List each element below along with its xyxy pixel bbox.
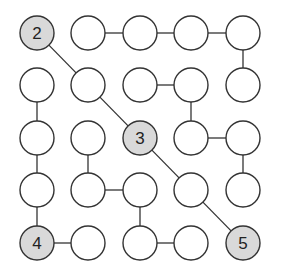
circle-shape[interactable] — [123, 173, 157, 207]
circle-shape[interactable] — [226, 68, 260, 102]
circle-shape[interactable] — [174, 68, 208, 102]
circle-shape[interactable] — [71, 121, 105, 155]
circle-shape[interactable] — [71, 226, 105, 260]
circle-number: 3 — [135, 129, 144, 148]
numbered-circle-5[interactable]: 5 — [226, 226, 260, 260]
circle-shape[interactable] — [71, 173, 105, 207]
empty-circle[interactable] — [20, 68, 54, 102]
empty-circle[interactable] — [174, 173, 208, 207]
circle-shape[interactable] — [71, 68, 105, 102]
circle-shape[interactable] — [174, 226, 208, 260]
circle-number: 2 — [32, 24, 41, 43]
circle-shape[interactable] — [174, 121, 208, 155]
numbered-circle-4[interactable]: 4 — [20, 226, 54, 260]
empty-circle[interactable] — [123, 226, 157, 260]
circle-shape[interactable] — [123, 226, 157, 260]
empty-circle[interactable] — [226, 16, 260, 50]
circle-shape[interactable] — [226, 173, 260, 207]
circle-shape[interactable] — [20, 68, 54, 102]
circle-shape[interactable] — [174, 173, 208, 207]
circle-number: 5 — [238, 234, 247, 253]
circle-shape[interactable] — [226, 121, 260, 155]
empty-circle[interactable] — [174, 68, 208, 102]
circle-shape[interactable] — [226, 16, 260, 50]
empty-circle[interactable] — [20, 121, 54, 155]
circle-number: 4 — [32, 234, 41, 253]
empty-circle[interactable] — [71, 226, 105, 260]
empty-circle[interactable] — [174, 226, 208, 260]
numbered-circle-3[interactable]: 3 — [123, 121, 157, 155]
empty-circle[interactable] — [71, 16, 105, 50]
circle-shape[interactable] — [123, 68, 157, 102]
empty-circle[interactable] — [226, 173, 260, 207]
circle-shape[interactable] — [174, 16, 208, 50]
empty-circle[interactable] — [71, 68, 105, 102]
empty-circle[interactable] — [20, 173, 54, 207]
empty-circle[interactable] — [226, 121, 260, 155]
empty-circle[interactable] — [123, 173, 157, 207]
empty-circle[interactable] — [123, 16, 157, 50]
empty-circle[interactable] — [71, 121, 105, 155]
empty-circle[interactable] — [174, 121, 208, 155]
numbered-circle-2[interactable]: 2 — [20, 16, 54, 50]
circle-shape[interactable] — [20, 121, 54, 155]
empty-circle[interactable] — [226, 68, 260, 102]
circle-shape[interactable] — [123, 16, 157, 50]
circle-shape[interactable] — [20, 173, 54, 207]
empty-circle[interactable] — [174, 16, 208, 50]
puzzle-board: 2345 — [0, 0, 281, 275]
empty-circle[interactable] — [71, 173, 105, 207]
circle-shape[interactable] — [71, 16, 105, 50]
empty-circle[interactable] — [123, 68, 157, 102]
